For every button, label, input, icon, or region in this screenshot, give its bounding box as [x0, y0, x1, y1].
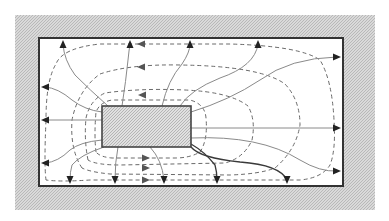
inner-obstacle-box — [102, 106, 191, 147]
flow-field-diagram — [0, 0, 389, 221]
